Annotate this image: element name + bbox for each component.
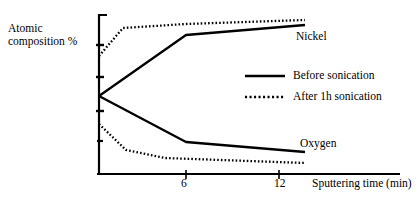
chart-figure: Atomic composition % Sputtering time (mi… xyxy=(0,0,420,199)
x-axis-tick-label-6: 6 xyxy=(181,177,187,190)
series-line-nickel-before xyxy=(99,25,305,96)
series-annotation-nickel: Nickel xyxy=(296,30,327,43)
x-axis-label: Sputtering time (min) xyxy=(312,177,412,190)
legend-label-after-sonication: After 1h sonication xyxy=(293,90,382,103)
x-axis-tick-label-12: 12 xyxy=(274,177,286,190)
series-line-nickel-after xyxy=(99,20,305,56)
y-axis-label: Atomic composition % xyxy=(8,22,94,48)
series-annotation-oxygen: Oxygen xyxy=(300,137,336,150)
series-line-oxygen-before xyxy=(99,96,305,152)
legend-label-before-sonication: Before sonication xyxy=(293,69,374,82)
